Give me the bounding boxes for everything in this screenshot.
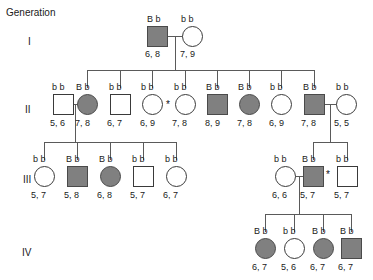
individual-IV-1[interactable] [255, 238, 276, 259]
genotype-IV-3: B b [312, 227, 326, 236]
individual-II-2[interactable] [77, 94, 98, 115]
genotype-IV-4: B b [340, 227, 354, 236]
individual-IV-3[interactable] [313, 238, 334, 259]
markers-IV-4: 6, 7 [338, 263, 353, 272]
sibship-bar-II [87, 70, 314, 71]
markers-II-8: 6, 9 [269, 119, 284, 128]
individual-III-6[interactable] [275, 166, 296, 187]
genotype-III-8: b b [336, 155, 349, 164]
genotype-III-4: b b [132, 155, 145, 164]
markers-II-5: 7, 8 [172, 119, 187, 128]
genotype-III-6: b b [274, 155, 287, 164]
genotype-IV-1: B b [254, 227, 268, 236]
genotype-I-2: b b [181, 15, 194, 24]
individual-III-8[interactable] [337, 166, 358, 187]
genotype-II-6: B b [206, 83, 220, 92]
markers-III-1: 5, 7 [31, 191, 46, 200]
genotype-II-7: B b [238, 83, 252, 92]
markers-IV-1: 6, 7 [252, 263, 267, 272]
generation-label-III: III [23, 175, 31, 185]
individual-III-1[interactable] [34, 166, 55, 187]
asterisk-marker-III-7: * [326, 170, 330, 180]
sibship-bar-IV [265, 214, 352, 215]
individual-II-4[interactable] [142, 94, 163, 115]
generation-label-II: II [25, 105, 31, 115]
individual-I-1[interactable] [147, 26, 168, 47]
genotype-II-3: b b [109, 83, 122, 92]
generation-label-I: I [28, 37, 31, 47]
descent-line-II-2 [330, 104, 331, 142]
individual-IV-2[interactable] [284, 238, 305, 259]
markers-II-10: 5, 5 [334, 119, 349, 128]
markers-I-2: 7, 9 [180, 50, 195, 59]
markers-III-2: 5, 8 [64, 191, 79, 200]
genotype-II-2: B b [76, 83, 90, 92]
individual-III-2[interactable] [67, 166, 88, 187]
markers-II-1: 5, 6 [50, 119, 65, 128]
markers-III-7: 5, 7 [300, 191, 315, 200]
markers-II-4: 6, 9 [140, 119, 155, 128]
genotype-III-7: B b [302, 155, 316, 164]
markers-III-4: 5, 7 [130, 191, 145, 200]
genotype-II-9: B b [303, 83, 317, 92]
markers-IV-2: 5, 6 [281, 263, 296, 272]
sibship-bar-III-right [313, 142, 347, 143]
asterisk-marker-II-5: * [166, 100, 170, 110]
markers-III-6: 6, 6 [272, 191, 287, 200]
markers-II-2: 7, 8 [75, 119, 90, 128]
individual-II-10[interactable] [336, 94, 357, 115]
individual-III-4[interactable] [133, 166, 154, 187]
individual-II-5[interactable] [175, 94, 196, 115]
individual-II-1[interactable] [53, 94, 74, 115]
genotype-III-3: B b [99, 155, 113, 164]
individual-II-9[interactable] [304, 94, 325, 115]
generation-label-IV: IV [22, 248, 31, 258]
descent-line-I [175, 36, 176, 71]
markers-II-3: 6, 7 [107, 119, 122, 128]
genotype-II-10: b b [336, 83, 349, 92]
genotype-IV-2: b b [283, 227, 296, 236]
markers-I-1: 6, 8 [145, 50, 160, 59]
genotype-I-1: B b [147, 15, 161, 24]
individual-I-2[interactable] [182, 26, 203, 47]
genotype-III-1: b b [33, 155, 46, 164]
markers-II-9: 7, 8 [301, 119, 316, 128]
individual-III-5[interactable] [166, 166, 187, 187]
chart-title: Generation [6, 8, 55, 18]
markers-IV-3: 6, 7 [310, 263, 325, 272]
markers-III-5: 6, 7 [163, 191, 178, 200]
markers-III-8: 5, 7 [334, 191, 349, 200]
individual-III-3[interactable] [100, 166, 121, 187]
genotype-II-4: b b [141, 83, 154, 92]
individual-II-8[interactable] [271, 94, 292, 115]
genotype-II-1: b b [52, 83, 65, 92]
individual-IV-4[interactable] [341, 238, 362, 259]
individual-II-6[interactable] [207, 94, 228, 115]
genotype-II-5: b b [174, 83, 187, 92]
individual-III-7[interactable] [303, 166, 324, 187]
genotype-III-5: b b [165, 155, 178, 164]
pedigree-chart: Generation I II III IV B b 6, 8 b b 7 [0, 0, 373, 280]
individual-II-3[interactable] [110, 94, 131, 115]
markers-II-6: 8, 9 [205, 119, 220, 128]
markers-II-7: 7, 8 [237, 119, 252, 128]
individual-II-7[interactable] [239, 94, 260, 115]
genotype-III-2: B b [66, 155, 80, 164]
genotype-II-8: b b [270, 83, 283, 92]
markers-III-3: 6, 8 [97, 191, 112, 200]
